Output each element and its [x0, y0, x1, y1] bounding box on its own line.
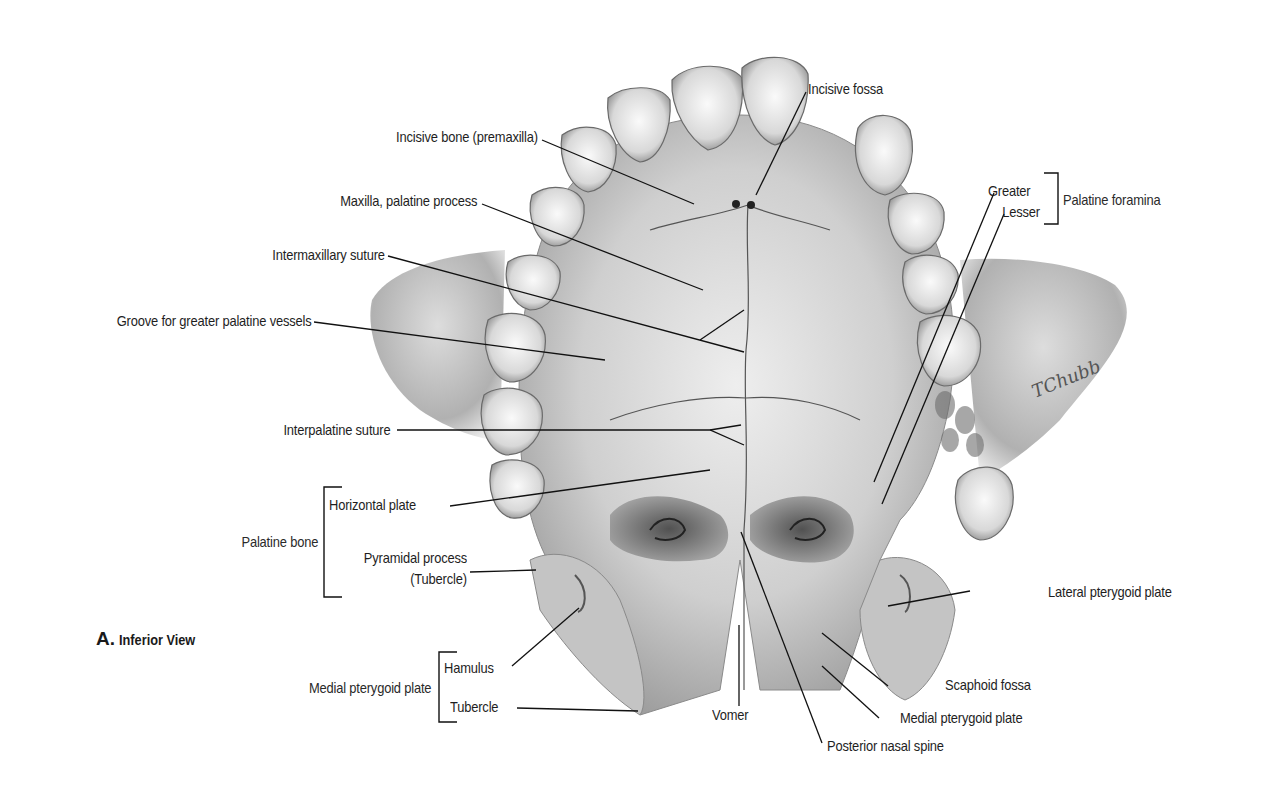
label-lateral-pterygoid-plate: Lateral pterygoid plate	[1048, 583, 1172, 601]
label-incisive-fossa: Incisive fossa	[808, 80, 883, 98]
label-medial-pterygoid-plate-left: Medial pterygoid plate	[309, 679, 431, 697]
label-medial-tubercle: Tubercle	[450, 698, 498, 716]
panel-letter: A.	[96, 628, 115, 649]
label-pyramidal-process: Pyramidal process	[364, 549, 467, 567]
label-hamulus: Hamulus	[444, 659, 494, 677]
label-greater-palatine-foramen: Greater	[987, 182, 1030, 200]
panel-title: A. Inferior View	[96, 628, 209, 650]
label-medial-pterygoid-plate-right: Medial pterygoid plate	[900, 709, 1022, 727]
label-incisive-bone: Incisive bone (premaxilla)	[396, 128, 538, 146]
molar-2-right	[955, 467, 1013, 540]
label-groove-greater-palatine: Groove for greater palatine vessels	[116, 312, 311, 330]
label-horizontal-plate: Horizontal plate	[329, 496, 416, 514]
label-palatine-bone: Palatine bone	[241, 533, 318, 551]
leader-tubercle	[517, 708, 638, 711]
label-maxilla-palatine-process: Maxilla, palatine process	[340, 192, 477, 210]
label-vomer: Vomer	[712, 706, 748, 724]
hard-palate-illustration	[0, 0, 1273, 801]
pterygoid-plates-right	[860, 557, 955, 700]
label-scaphoid-fossa: Scaphoid fossa	[945, 676, 1031, 694]
label-interpalatine-suture: Interpalatine suture	[283, 421, 390, 439]
bracket-palatine-foramina	[1044, 173, 1058, 224]
zygomatic-wing-right	[960, 259, 1127, 480]
panel-view-name: Inferior View	[119, 631, 195, 648]
label-palatine-foramina: Palatine foramina	[1063, 191, 1160, 209]
anatomy-figure: TChubb Incisive fossa Incisive bone (pre…	[0, 0, 1273, 801]
label-intermaxillary-suture: Intermaxillary suture	[272, 246, 385, 264]
label-pyramidal-tubercle: (Tubercle)	[410, 570, 467, 588]
label-posterior-nasal-spine: Posterior nasal spine	[827, 737, 944, 755]
label-lesser-palatine-foramen: Lesser	[1002, 203, 1040, 221]
choana-right	[750, 496, 854, 562]
leader-medial-pterygoid-right	[822, 666, 879, 718]
leader-pyramidal-process	[470, 570, 536, 572]
